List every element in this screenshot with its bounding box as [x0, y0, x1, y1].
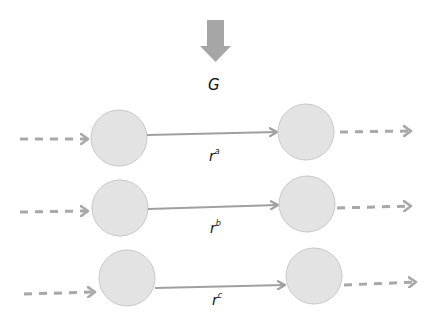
label-r-a: ra	[209, 148, 220, 164]
node-a-left	[91, 110, 147, 166]
label-r-a-base: r	[209, 148, 215, 164]
diagram-canvas	[0, 0, 438, 328]
node-b-left	[92, 180, 148, 236]
outgoing-dashed-edge-b	[337, 206, 411, 208]
node-c-left	[99, 250, 155, 306]
label-r-b-base: r	[210, 220, 216, 236]
label-r-c-sup: c	[218, 291, 222, 300]
label-r-c: rc	[212, 292, 222, 308]
edge-c	[155, 285, 285, 288]
node-b-right	[279, 176, 335, 232]
label-r-a-sup: a	[215, 147, 220, 156]
outgoing-dashed-edge-a	[340, 131, 411, 132]
label-g: G	[208, 76, 220, 94]
label-r-b-sup: b	[216, 219, 221, 228]
outgoing-dashed-edge-c	[344, 282, 416, 285]
edge-a	[147, 132, 277, 135]
incoming-dashed-edge-c	[24, 292, 95, 294]
node-a-right	[278, 104, 334, 160]
edge-b	[148, 205, 278, 209]
label-r-c-base: r	[212, 292, 218, 308]
down-arrow-icon	[200, 20, 231, 62]
incoming-dashed-edge-b	[20, 211, 88, 212]
label-r-b: rb	[210, 220, 221, 236]
node-c-right	[286, 248, 342, 304]
